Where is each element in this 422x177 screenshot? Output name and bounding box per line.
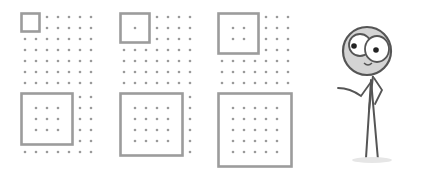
grid-dot bbox=[221, 60, 224, 63]
grid-dot bbox=[79, 60, 82, 63]
dot-grid-panel-3 bbox=[219, 14, 290, 85]
grid-dot bbox=[134, 129, 137, 132]
grid-dot bbox=[254, 107, 257, 110]
grid-dot bbox=[90, 118, 93, 121]
grid-dot bbox=[156, 82, 159, 85]
grid-dot bbox=[90, 60, 93, 63]
grid-dot bbox=[178, 49, 181, 52]
grid-dot bbox=[35, 82, 38, 85]
grid-dot bbox=[276, 82, 279, 85]
grid-dot bbox=[46, 82, 49, 85]
grid-dot bbox=[265, 82, 268, 85]
grid-dot bbox=[79, 140, 82, 143]
grid-dot bbox=[254, 118, 257, 121]
grid-dot bbox=[232, 129, 235, 132]
grid-dot bbox=[287, 16, 290, 19]
dot-grid-panel-2 bbox=[121, 14, 192, 85]
grid-dot bbox=[134, 118, 137, 121]
grid-dot bbox=[254, 129, 257, 132]
grid-dot bbox=[35, 60, 38, 63]
grid-dot bbox=[189, 96, 192, 99]
ground-shadow bbox=[352, 157, 392, 163]
grid-dot bbox=[57, 60, 60, 63]
grid-dot bbox=[189, 27, 192, 30]
grid-dot bbox=[68, 27, 71, 30]
grid-dot bbox=[134, 60, 137, 63]
grid-dot bbox=[46, 27, 49, 30]
grid-dot bbox=[24, 71, 27, 74]
grid-dot bbox=[276, 16, 279, 19]
grid-dot bbox=[265, 27, 268, 30]
grid-dot bbox=[156, 71, 159, 74]
grid-dot bbox=[189, 38, 192, 41]
grid-dot bbox=[265, 60, 268, 63]
grid-dot bbox=[287, 38, 290, 41]
figure-pupil-left bbox=[351, 43, 357, 49]
grid-dot bbox=[265, 38, 268, 41]
grid-dot bbox=[57, 16, 60, 19]
grid-dot bbox=[232, 71, 235, 74]
grid-dot bbox=[254, 60, 257, 63]
grid-dot bbox=[46, 49, 49, 52]
square-numbers-diagram bbox=[0, 0, 422, 177]
grid-dot bbox=[68, 38, 71, 41]
grid-dot bbox=[68, 60, 71, 63]
square-outline-3x3 bbox=[219, 14, 259, 54]
grid-dot bbox=[156, 60, 159, 63]
grid-dot bbox=[287, 82, 290, 85]
grid-dot bbox=[167, 107, 170, 110]
stick-figure bbox=[338, 27, 392, 163]
grid-dot bbox=[46, 151, 49, 154]
grid-dot bbox=[232, 60, 235, 63]
grid-dot bbox=[24, 38, 27, 41]
grid-dot bbox=[134, 27, 137, 30]
grid-dot bbox=[90, 140, 93, 143]
grid-dot bbox=[189, 60, 192, 63]
grid-dot bbox=[145, 107, 148, 110]
grid-dot bbox=[232, 140, 235, 143]
grid-dot bbox=[90, 16, 93, 19]
grid-dot bbox=[243, 71, 246, 74]
grid-dot bbox=[189, 151, 192, 154]
dot-grid-panel-4 bbox=[22, 94, 93, 154]
grid-dot bbox=[189, 118, 192, 121]
grid-dot bbox=[145, 71, 148, 74]
dot-grid-panel-5 bbox=[121, 94, 192, 156]
grid-dot bbox=[243, 118, 246, 121]
grid-dot bbox=[156, 140, 159, 143]
grid-dot bbox=[254, 82, 257, 85]
grid-dot bbox=[265, 118, 268, 121]
grid-dot bbox=[276, 129, 279, 132]
grid-dot bbox=[79, 38, 82, 41]
grid-dot bbox=[276, 140, 279, 143]
grid-dot bbox=[145, 82, 148, 85]
grid-dot bbox=[276, 49, 279, 52]
figure-pupil-right bbox=[373, 47, 379, 53]
grid-dot bbox=[46, 38, 49, 41]
grid-dot bbox=[79, 107, 82, 110]
grid-dot bbox=[24, 49, 27, 52]
grid-dot bbox=[90, 49, 93, 52]
grid-dot bbox=[287, 60, 290, 63]
grid-dot bbox=[232, 82, 235, 85]
grid-dot bbox=[221, 71, 224, 74]
grid-dot bbox=[57, 107, 60, 110]
grid-dot bbox=[90, 129, 93, 132]
grid-dot bbox=[156, 16, 159, 19]
grid-dot bbox=[68, 151, 71, 154]
grid-dot bbox=[243, 38, 246, 41]
grid-dot bbox=[178, 71, 181, 74]
grid-dot bbox=[46, 118, 49, 121]
grid-dot bbox=[276, 60, 279, 63]
grid-dot bbox=[134, 140, 137, 143]
grid-dot bbox=[123, 82, 126, 85]
grid-dot bbox=[167, 118, 170, 121]
grid-dot bbox=[24, 151, 27, 154]
grid-dot bbox=[243, 151, 246, 154]
grid-dot bbox=[90, 151, 93, 154]
grid-dot bbox=[156, 129, 159, 132]
grid-dot bbox=[287, 49, 290, 52]
grid-dot bbox=[90, 96, 93, 99]
grid-dot bbox=[243, 129, 246, 132]
grid-dot bbox=[189, 71, 192, 74]
